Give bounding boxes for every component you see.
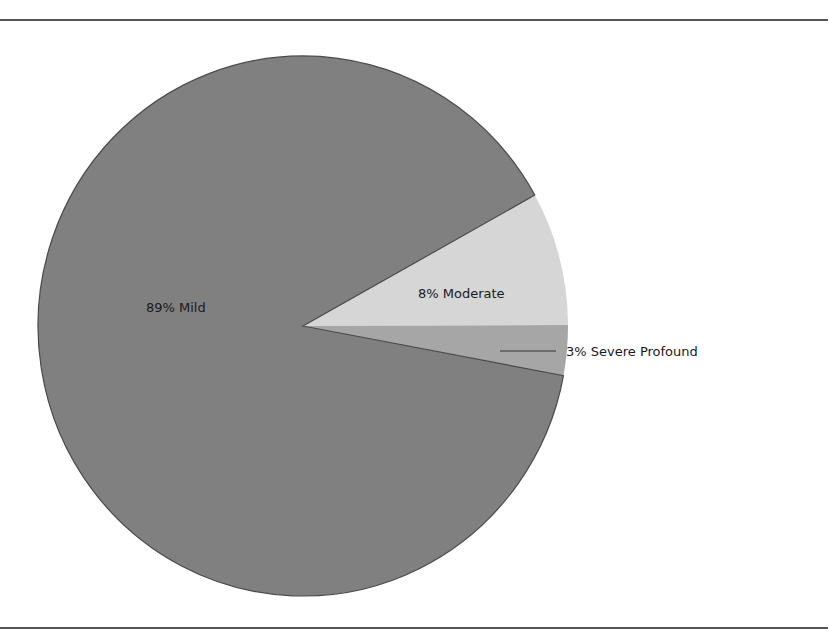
- pie-slices: [38, 56, 568, 596]
- label-mild: 89% Mild: [146, 300, 206, 315]
- label-moderate: 8% Moderate: [418, 286, 505, 301]
- pie-chart: 89% Mild 8% Moderate 3% Severe Profound: [0, 0, 836, 643]
- bottom-rule: [0, 627, 828, 629]
- label-severe-profound: 3% Severe Profound: [566, 344, 698, 359]
